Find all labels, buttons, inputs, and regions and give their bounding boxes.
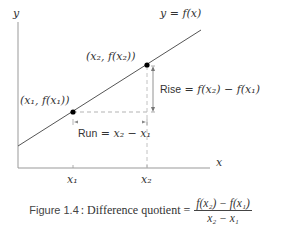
x1-tick-label: x₁ bbox=[67, 173, 78, 186]
x-axis-label: x bbox=[216, 156, 223, 169]
point-1 bbox=[70, 109, 75, 114]
point-2 bbox=[144, 62, 149, 67]
x2-tick-label: x₂ bbox=[141, 173, 152, 186]
fraction-numerator: f(x₂) − f(x₁) bbox=[194, 197, 251, 211]
figure-caption: Figure 1.4 : Difference quotient = f(x₂)… bbox=[0, 192, 281, 228]
run-expr: = x₂ − x₁ bbox=[97, 127, 151, 140]
rise-label: Rise = f(x₂) − f(x₁) bbox=[160, 83, 260, 96]
run-arrowhead-right bbox=[142, 121, 146, 124]
run-arrowhead-left bbox=[74, 121, 78, 124]
point-2-label: (x₂, f(x₂)) bbox=[86, 50, 135, 63]
figure-number: Figure 1.4 bbox=[29, 204, 79, 216]
function-label: y = f(x) bbox=[159, 7, 201, 20]
rise-arrowhead-up bbox=[151, 66, 155, 71]
difference-quotient-fraction: f(x₂) − f(x₁) x₂ − x₁ bbox=[194, 197, 251, 224]
fraction-denominator: x₂ − x₁ bbox=[207, 211, 239, 224]
run-word: Run bbox=[78, 127, 97, 139]
run-label: Run = x₂ − x₁ bbox=[78, 127, 151, 140]
rise-expr: = f(x₂) − f(x₁) bbox=[181, 83, 260, 96]
rise-word: Rise bbox=[160, 83, 181, 95]
caption-text: : Difference quotient = bbox=[81, 203, 191, 218]
point-1-label: (x₁, f(x₁)) bbox=[20, 94, 69, 107]
rise-arrowhead-down bbox=[151, 107, 155, 112]
y-axis-label: y bbox=[12, 7, 20, 20]
